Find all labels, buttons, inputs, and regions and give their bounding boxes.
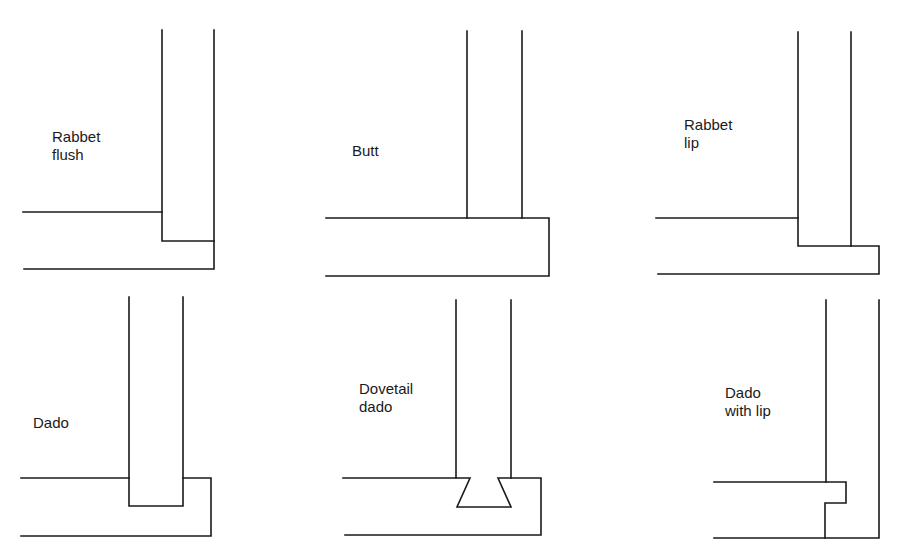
label-dado: Dado: [33, 414, 69, 432]
label-line: flush: [52, 146, 100, 164]
dovetail-dado-drawing: [343, 300, 541, 535]
label-line: with lip: [725, 402, 771, 420]
joint-diagram: [0, 0, 899, 553]
label-line: Dado: [33, 414, 69, 432]
label-line: Butt: [352, 142, 379, 160]
label-line: Rabbet: [52, 128, 100, 146]
label-line: dado: [359, 398, 413, 416]
label-dovetail-dado: Dovetail dado: [359, 380, 413, 416]
label-line: Dovetail: [359, 380, 413, 398]
label-dado-with-lip: Dado with lip: [725, 384, 771, 420]
label-butt: Butt: [352, 142, 379, 160]
label-rabbet-flush: Rabbet flush: [52, 128, 100, 164]
label-line: lip: [684, 134, 732, 152]
label-line: Rabbet: [684, 116, 732, 134]
label-rabbet-lip: Rabbet lip: [684, 116, 732, 152]
rabbet-lip-drawing: [656, 32, 879, 274]
label-line: Dado: [725, 384, 771, 402]
